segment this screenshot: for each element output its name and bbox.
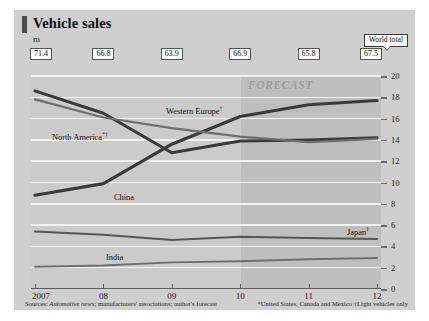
y-tick-18 xyxy=(381,97,387,99)
world-total-value-2007: 71.4 xyxy=(30,48,52,60)
x-tick-label-10: 10 xyxy=(236,291,245,301)
unit-label: m xyxy=(33,34,40,44)
series-line-north-america xyxy=(35,91,377,153)
title-accent-bar xyxy=(22,16,27,33)
series-label-china: China xyxy=(114,193,134,202)
x-tick-2007 xyxy=(35,284,36,289)
series-label-western-europe: Western Europe† xyxy=(166,105,223,116)
y-tick-0 xyxy=(381,289,387,291)
y-tick-label-4: 4 xyxy=(391,241,395,251)
y-tick-14 xyxy=(381,140,387,142)
x-tick-10 xyxy=(240,284,241,289)
definitions-note: *United States, Canada and Mexico †Light… xyxy=(257,300,408,307)
world-total-value-11: 65.8 xyxy=(298,48,320,60)
y-tick-10 xyxy=(381,183,387,185)
y-tick-label-0: 0 xyxy=(391,284,395,294)
x-tick-09 xyxy=(172,284,173,289)
world-total-value-10: 66.9 xyxy=(229,48,251,60)
y-tick-label-2: 2 xyxy=(391,263,395,273)
world-total-value-12: 67.5 xyxy=(360,48,382,60)
y-tick-label-20: 20 xyxy=(391,71,400,81)
y-tick-label-18: 18 xyxy=(391,92,400,102)
series-label-india: India xyxy=(106,253,123,262)
world-total-value-08: 66.8 xyxy=(92,48,114,60)
series-label-japan: Japan† xyxy=(347,226,369,237)
x-tick-11 xyxy=(309,284,310,289)
y-tick-label-8: 8 xyxy=(391,199,395,209)
series-line-japan xyxy=(35,231,377,240)
chart-figure: Vehicle sales m World total 71.466.863.9… xyxy=(14,10,415,310)
y-tick-8 xyxy=(381,204,387,206)
y-tick-16 xyxy=(381,119,387,121)
y-tick-label-10: 10 xyxy=(391,178,400,188)
y-tick-label-12: 12 xyxy=(391,156,400,166)
world-total-callout-pointer xyxy=(383,45,391,50)
y-tick-20 xyxy=(381,76,387,78)
page-title: Vehicle sales xyxy=(33,15,112,32)
y-tick-label-16: 16 xyxy=(391,114,400,124)
y-tick-label-14: 14 xyxy=(391,135,400,145)
x-tick-12 xyxy=(377,284,378,289)
world-total-value-09: 63.9 xyxy=(161,48,183,60)
y-tick-12 xyxy=(381,161,387,163)
y-tick-4 xyxy=(381,246,387,248)
y-tick-label-6: 6 xyxy=(391,220,395,230)
series-line-india xyxy=(35,258,377,267)
y-tick-6 xyxy=(381,225,387,227)
x-tick-08 xyxy=(103,284,104,289)
x-axis-line xyxy=(31,288,381,289)
y-tick-2 xyxy=(381,268,387,270)
series-label-north-america: North America*† xyxy=(52,131,108,142)
sources-note: Sources: Automotive news; manufacturers'… xyxy=(25,300,217,307)
